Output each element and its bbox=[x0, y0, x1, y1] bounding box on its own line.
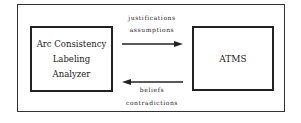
arrow-left-icon bbox=[122, 79, 183, 85]
arrows-layer bbox=[0, 0, 301, 123]
arrow-right-icon bbox=[122, 41, 183, 47]
